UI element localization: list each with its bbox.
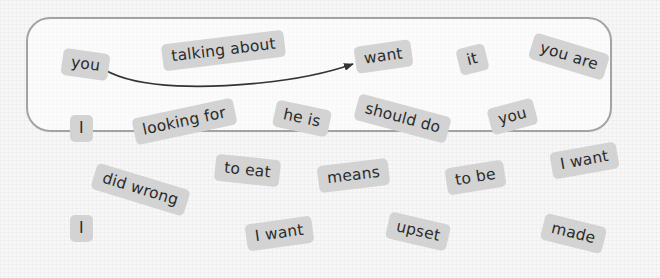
word-tile[interactable]: I want <box>549 141 619 179</box>
word-tile[interactable]: did wrong <box>90 162 190 216</box>
word-tile[interactable]: means <box>317 158 391 193</box>
word-tile[interactable]: to be <box>444 160 506 196</box>
word-tile[interactable]: upset <box>385 211 452 251</box>
word-tile[interactable]: to eat <box>214 154 281 188</box>
word-tile[interactable]: I <box>70 115 93 142</box>
word-tile[interactable]: I want <box>244 215 314 251</box>
word-tile[interactable]: made <box>540 213 607 254</box>
word-tile[interactable]: I <box>70 215 93 242</box>
